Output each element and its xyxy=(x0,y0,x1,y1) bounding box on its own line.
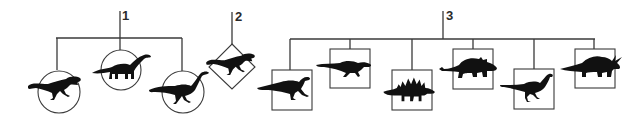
member-node-iguanodont xyxy=(257,70,312,110)
member-node-theropod-diamond xyxy=(206,44,255,89)
member-node-pachycephalosaur xyxy=(316,49,371,88)
group-2 xyxy=(206,12,255,89)
member-node-theropod xyxy=(28,71,81,113)
member-node-sauropod xyxy=(92,50,151,90)
group-3 xyxy=(257,11,622,110)
member-node-ceratopsian xyxy=(560,49,622,88)
member-node-stegosaur xyxy=(384,70,435,110)
group-1 xyxy=(28,11,209,113)
member-node-ankylosaur xyxy=(439,49,497,89)
member-node-prosauropod xyxy=(149,71,209,113)
dinosaur-classification-diagram: 1 2 3 xyxy=(0,0,626,122)
member-node-ornithopod xyxy=(500,69,554,109)
